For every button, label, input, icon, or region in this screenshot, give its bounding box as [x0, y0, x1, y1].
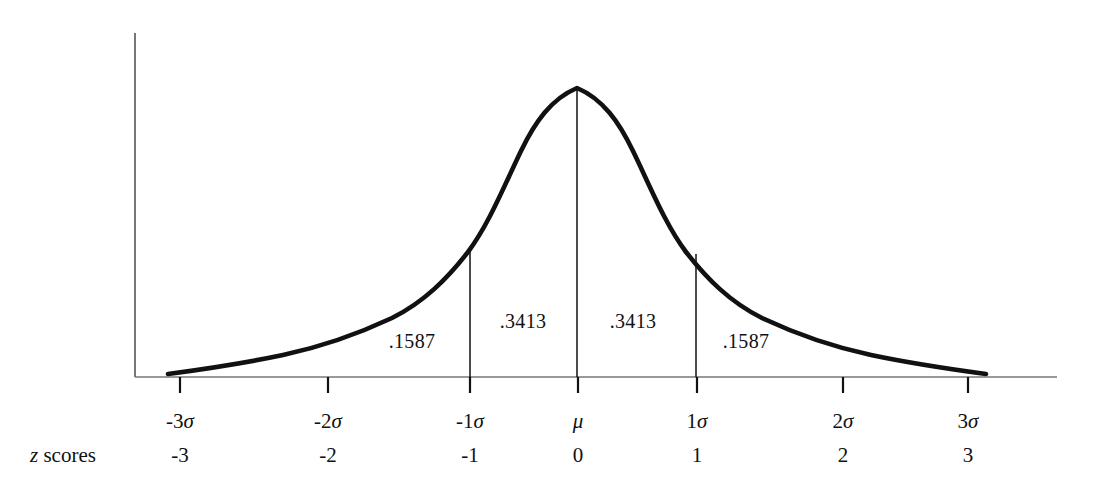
axis-label-neg1sigma: -1σ	[456, 409, 484, 434]
density-drop-lines	[470, 89, 696, 377]
normal-distribution-figure: .1587 .3413 .3413 .1587 -3σ -2σ -1σ μ 1σ…	[0, 0, 1110, 485]
axis-label-pos3sigma: 3σ	[958, 409, 979, 434]
area-label-right-inner: .3413	[610, 310, 657, 333]
zscore-value-zero: 0	[573, 443, 584, 468]
axis-label-pos1sigma: 1σ	[687, 409, 708, 434]
x-axis-ticks	[180, 377, 968, 393]
axis-label-mu: μ	[573, 409, 584, 434]
area-label-left-inner: .3413	[500, 310, 547, 333]
zscore-value-neg3: -3	[171, 443, 189, 468]
axis-label-pos2sigma: 2σ	[833, 409, 854, 434]
z-scores-row-label: z scores	[30, 443, 96, 468]
axis-label-neg3sigma: -3σ	[166, 409, 194, 434]
zscore-value-pos2: 2	[838, 443, 849, 468]
zscore-value-neg2: -2	[319, 443, 337, 468]
zscore-value-neg1: -1	[461, 443, 479, 468]
axis-label-neg2sigma: -2σ	[314, 409, 342, 434]
area-label-right-outer: .1587	[723, 330, 770, 353]
zscore-value-pos1: 1	[692, 443, 703, 468]
zscore-value-pos3: 3	[963, 443, 974, 468]
area-label-left-outer: .1587	[389, 330, 436, 353]
